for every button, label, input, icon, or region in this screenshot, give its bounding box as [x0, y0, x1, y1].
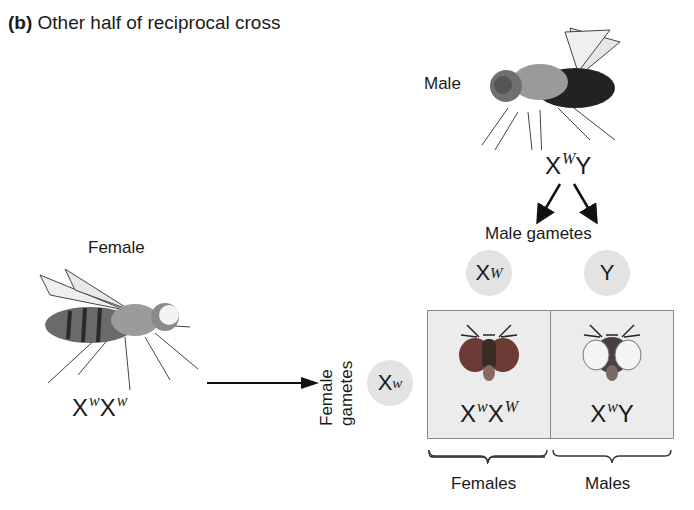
- red-eye-fly-head-icon: [457, 323, 521, 385]
- males-label: Males: [585, 474, 630, 494]
- female-fly-icon: [30, 265, 205, 395]
- male-genotype: XWY: [545, 150, 591, 180]
- white-eye-fly-head-icon: [580, 323, 644, 385]
- figure-label: (b): [8, 12, 32, 33]
- figure-caption: Other half of reciprocal cross: [38, 12, 281, 33]
- punnett-square: XwXW XwY: [427, 310, 674, 439]
- male-gametes-label: Male gametes: [485, 224, 592, 244]
- female-gamete-xw: Xw: [367, 360, 413, 406]
- male-label: Male: [424, 74, 461, 94]
- female-gamete-arrow: [205, 375, 320, 391]
- gamete-split-arrows: [520, 180, 610, 230]
- female-label: Female: [88, 238, 145, 258]
- offspring-braces: [427, 448, 674, 468]
- figure-title: (b) Other half of reciprocal cross: [8, 12, 280, 34]
- punnett-cell-female: XwXW: [428, 311, 550, 438]
- male-gamete-y: Y: [584, 250, 630, 296]
- genotype-xw-xW: XwXW: [428, 398, 550, 428]
- females-label: Females: [451, 474, 516, 494]
- male-fly-icon: [470, 20, 620, 150]
- genotype-xw-y: XwY: [551, 398, 673, 428]
- male-gamete-xw: XW: [466, 250, 512, 296]
- punnett-cell-male: XwY: [550, 311, 673, 438]
- female-genotype: XwXw: [72, 392, 127, 422]
